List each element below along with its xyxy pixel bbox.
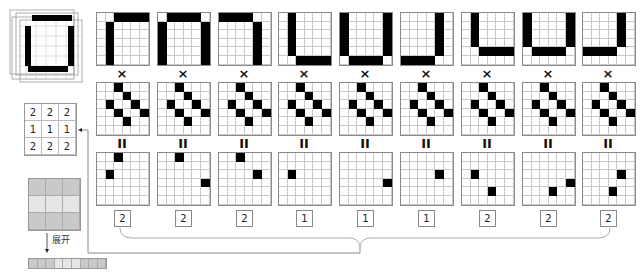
connector-lines: [0, 0, 642, 274]
